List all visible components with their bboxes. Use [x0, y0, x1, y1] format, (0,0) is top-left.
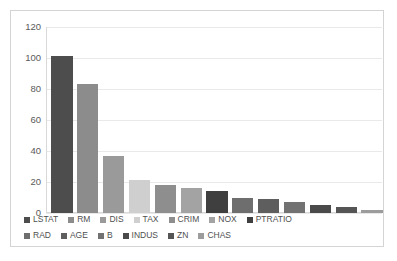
legend-swatch-icon: [61, 233, 67, 239]
legend-swatch-icon: [169, 217, 175, 223]
legend-swatch-icon: [24, 217, 30, 223]
legend-swatch-icon: [98, 233, 104, 239]
legend-label: RM: [77, 215, 90, 224]
legend-item-b[interactable]: B: [98, 231, 113, 240]
bar-lstat: [51, 56, 72, 213]
bar-rad: [232, 198, 253, 214]
legend-item-nox[interactable]: NOX: [209, 215, 236, 224]
y-axis-tick-label: 40: [30, 146, 41, 156]
legend-label: PTRATIO: [256, 215, 292, 224]
legend-label: INDUS: [132, 231, 158, 240]
y-axis-tick-label: 120: [25, 22, 41, 32]
legend-item-crim[interactable]: CRIM: [169, 215, 200, 224]
legend-label: CHAS: [207, 231, 231, 240]
chart-legend: LSTATRMDISTAXCRIMNOXPTRATIO RADAGEBINDUS…: [10, 212, 384, 244]
y-axis-tick-label: 80: [30, 84, 41, 94]
legend-item-rad[interactable]: RAD: [24, 231, 51, 240]
bar-ptratio: [206, 191, 227, 213]
legend-swatch-icon: [24, 233, 30, 239]
y-axis-tick-label: 100: [25, 53, 41, 63]
legend-swatch-icon: [100, 217, 106, 223]
legend-label: RAD: [33, 231, 51, 240]
legend-item-rm[interactable]: RM: [68, 215, 90, 224]
legend-label: ZN: [177, 231, 188, 240]
bar-nox: [181, 188, 202, 213]
legend-swatch-icon: [68, 217, 74, 223]
y-axis-tick-label: 20: [30, 177, 41, 187]
legend-label: AGE: [70, 231, 88, 240]
legend-swatch-icon: [134, 217, 140, 223]
legend-label: CRIM: [178, 215, 200, 224]
legend-row: RADAGEBINDUSZNCHAS: [24, 228, 370, 243]
legend-item-age[interactable]: AGE: [61, 231, 88, 240]
legend-item-lstat[interactable]: LSTAT: [24, 215, 58, 224]
legend-label: LSTAT: [33, 215, 58, 224]
plot-area: 020406080100120: [46, 27, 382, 213]
legend-label: NOX: [218, 215, 236, 224]
legend-swatch-icon: [247, 217, 253, 223]
legend-swatch-icon: [123, 233, 129, 239]
bar-crim: [155, 185, 176, 213]
legend-item-ptratio[interactable]: PTRATIO: [247, 215, 292, 224]
legend-label: B: [107, 231, 113, 240]
legend-item-zn[interactable]: ZN: [168, 231, 188, 240]
y-axis-tick-label: 60: [30, 115, 41, 125]
legend-item-tax[interactable]: TAX: [134, 215, 159, 224]
legend-row: LSTATRMDISTAXCRIMNOXPTRATIO: [24, 212, 370, 227]
bar-rm: [77, 84, 98, 213]
legend-item-indus[interactable]: INDUS: [123, 231, 158, 240]
legend-item-chas[interactable]: CHAS: [198, 231, 231, 240]
bars-layer: [46, 27, 382, 213]
legend-swatch-icon: [209, 217, 215, 223]
bar-chart-figure: 020406080100120 LSTATRMDISTAXCRIMNOXPTRA…: [0, 0, 397, 261]
bar-dis: [103, 156, 124, 213]
legend-swatch-icon: [198, 233, 204, 239]
bar-tax: [129, 180, 150, 213]
legend-item-dis[interactable]: DIS: [100, 215, 123, 224]
legend-label: TAX: [143, 215, 159, 224]
legend-label: DIS: [109, 215, 123, 224]
legend-swatch-icon: [168, 233, 174, 239]
bar-age: [258, 199, 279, 213]
